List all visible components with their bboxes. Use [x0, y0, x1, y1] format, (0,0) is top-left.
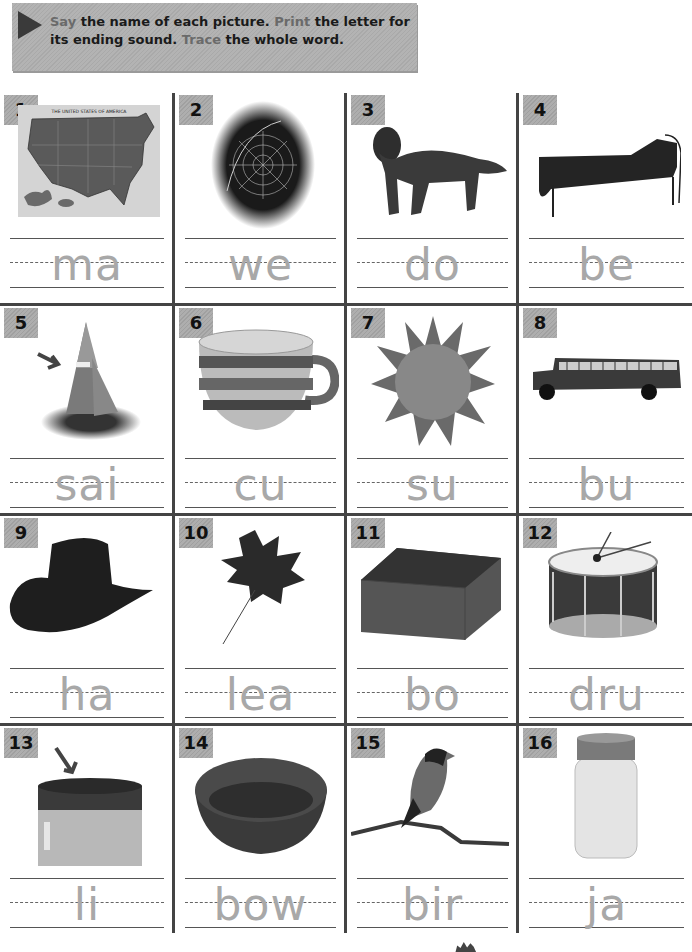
- exercise-item-13: 13 li: [0, 723, 175, 933]
- trace-word: ja: [529, 882, 684, 928]
- leaf-picture: [221, 530, 305, 650]
- exercise-item-4: 4 be: [519, 93, 692, 303]
- handwriting-lines[interactable]: bir: [357, 878, 508, 932]
- bed-icon: [531, 133, 681, 223]
- bowl-icon: [191, 750, 331, 860]
- jar-lid-picture: [34, 746, 144, 866]
- exercise-item-8: 8 bu: [519, 303, 692, 513]
- jar-picture: [571, 732, 643, 860]
- handwriting-lines[interactable]: do: [357, 238, 508, 292]
- footer-star-icon: [455, 942, 477, 952]
- handwriting-lines[interactable]: su: [357, 458, 508, 512]
- bus-picture: [531, 352, 681, 402]
- instruction-keyword-trace: Trace: [182, 32, 221, 47]
- sailboat-picture: [36, 318, 146, 442]
- handwriting-lines[interactable]: bo: [357, 668, 508, 722]
- exercise-item-15: 15 bir: [347, 723, 519, 933]
- trace-word: dru: [529, 672, 684, 718]
- hat-icon: [8, 534, 153, 634]
- dog-picture: [369, 123, 509, 223]
- trace-word: bo: [357, 672, 508, 718]
- handwriting-lines[interactable]: dru: [529, 668, 684, 722]
- trace-word: su: [357, 462, 508, 508]
- handwriting-lines[interactable]: be: [529, 238, 684, 292]
- trace-word: cu: [185, 462, 336, 508]
- usa-map-icon: THE UNITED STATES OF AMERICA: [18, 105, 160, 217]
- sun-icon: [371, 316, 495, 446]
- drum-icon: [547, 532, 659, 648]
- handwriting-lines[interactable]: li: [10, 878, 164, 932]
- instructions-text: Say the name of each picture. Print the …: [50, 13, 420, 49]
- item-number: 13: [4, 728, 38, 758]
- exercise-item-10: 10 lea: [175, 513, 347, 723]
- bowl-picture: [191, 750, 331, 860]
- handwriting-lines[interactable]: bow: [185, 878, 336, 932]
- trace-word: ma: [10, 242, 164, 288]
- exercise-item-16: 16 ja: [519, 723, 692, 933]
- box-picture: [357, 540, 503, 640]
- trace-word: sai: [10, 462, 164, 508]
- trace-word: li: [10, 882, 164, 928]
- exercise-item-3: 3 do: [347, 93, 519, 303]
- exercise-item-2: 2 we: [175, 93, 347, 303]
- item-number: 16: [523, 728, 557, 758]
- trace-word: be: [529, 242, 684, 288]
- sailboat-icon: [36, 318, 146, 442]
- trace-word: we: [185, 242, 336, 288]
- exercise-item-7: 7 su: [347, 303, 519, 513]
- leaf-icon: [221, 530, 305, 650]
- bird-picture: [351, 738, 511, 858]
- dog-icon: [369, 123, 509, 223]
- handwriting-lines[interactable]: ja: [529, 878, 684, 932]
- handwriting-lines[interactable]: ma: [10, 238, 164, 292]
- hat-picture: [8, 534, 153, 634]
- pointer-arrow-icon: [56, 748, 76, 772]
- exercise-item-6: 6 cu: [175, 303, 347, 513]
- item-number: 8: [523, 308, 557, 338]
- item-number: 2: [179, 95, 213, 125]
- item-number: 5: [4, 308, 38, 338]
- drum-picture: [547, 532, 659, 648]
- exercise-item-14: 14 bow: [175, 723, 347, 933]
- instruction-keyword-say: Say: [50, 14, 76, 29]
- instruction-keyword-print: Print: [274, 14, 310, 29]
- instructions-banner: Say the name of each picture. Print the …: [12, 3, 417, 71]
- item-number: 4: [523, 95, 557, 125]
- item-number: 10: [179, 518, 213, 548]
- box-icon: [357, 540, 503, 640]
- trace-word: bu: [529, 462, 684, 508]
- exercise-item-11: 11 bo: [347, 513, 519, 723]
- exercise-item-5: 5 sai: [0, 303, 175, 513]
- jar-lid-icon: [34, 746, 144, 866]
- play-arrow-icon: [18, 11, 42, 39]
- sun-picture: [371, 316, 495, 446]
- trace-word: bir: [357, 882, 508, 928]
- handwriting-lines[interactable]: cu: [185, 458, 336, 512]
- trace-word: do: [357, 242, 508, 288]
- svg-text:THE UNITED STATES OF AMERICA: THE UNITED STATES OF AMERICA: [51, 109, 128, 114]
- exercise-grid: 1 THE UNITED STATES OF AMERICA ma 2: [0, 93, 692, 933]
- trace-word: lea: [185, 672, 336, 718]
- spider-web-picture: [211, 101, 315, 229]
- pointer-arrow-icon: [38, 354, 58, 368]
- bed-picture: [531, 133, 681, 223]
- jar-icon: [571, 732, 643, 860]
- handwriting-lines[interactable]: lea: [185, 668, 336, 722]
- bus-icon: [531, 352, 681, 402]
- handwriting-lines[interactable]: sai: [10, 458, 164, 512]
- handwriting-lines[interactable]: ha: [10, 668, 164, 722]
- item-number: 3: [351, 95, 385, 125]
- handwriting-lines[interactable]: bu: [529, 458, 684, 512]
- trace-word: ha: [10, 672, 164, 718]
- exercise-item-9: 9 ha: [0, 513, 175, 723]
- spider-web-icon: [211, 101, 315, 229]
- map-picture: THE UNITED STATES OF AMERICA: [18, 105, 160, 217]
- bird-icon: [351, 738, 511, 858]
- cup-picture: [195, 326, 339, 438]
- exercise-item-1: 1 THE UNITED STATES OF AMERICA ma: [0, 93, 175, 303]
- exercise-item-12: 12 dru: [519, 513, 692, 723]
- cup-icon: [195, 326, 339, 438]
- handwriting-lines[interactable]: we: [185, 238, 336, 292]
- trace-word: bow: [185, 882, 336, 928]
